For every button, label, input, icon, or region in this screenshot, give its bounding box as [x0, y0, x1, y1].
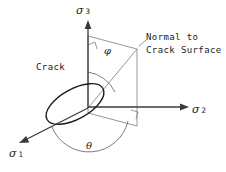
sigma2-subscript: 2	[202, 106, 207, 115]
sigma3-label: σ3	[76, 4, 90, 17]
normal-vector-line	[88, 49, 137, 108]
normal-to-crack-surface-label: Normal to Crack Surface	[146, 31, 222, 57]
figure-canvas	[0, 0, 226, 172]
sigma2-symbol: σ	[192, 103, 200, 116]
sigma1-subscript: 1	[19, 150, 24, 159]
normal-label-leader	[139, 40, 146, 46]
sigma1-label: σ1	[9, 147, 23, 160]
crack-orientation-figure: σ3 σ2 σ1 φ θ Crack Normal to Crack Surfa…	[0, 0, 226, 172]
sigma1-axis-arrowhead	[19, 136, 29, 143]
crack-ellipse	[40, 75, 111, 132]
crack-surface-plane	[88, 36, 137, 126]
sigma3-subscript: 3	[86, 7, 91, 16]
sigma1-axis	[27, 108, 88, 139]
right-angle-marker-top	[88, 42, 97, 49]
sigma1-symbol: σ	[9, 147, 17, 160]
phi-angle-label: φ	[104, 45, 111, 56]
theta-angle-label: θ	[86, 140, 92, 151]
sigma2-axis-arrowhead	[180, 104, 189, 111]
sigma3-axis-arrowhead	[85, 20, 92, 29]
phi-angle-arc	[88, 72, 115, 92]
normal-label-line-2: Crack Surface	[146, 44, 222, 57]
sigma2-label: σ2	[192, 103, 206, 116]
crack-label: Crack	[36, 62, 65, 72]
sigma3-symbol: σ	[76, 4, 84, 17]
normal-label-line-1: Normal to	[146, 31, 222, 44]
